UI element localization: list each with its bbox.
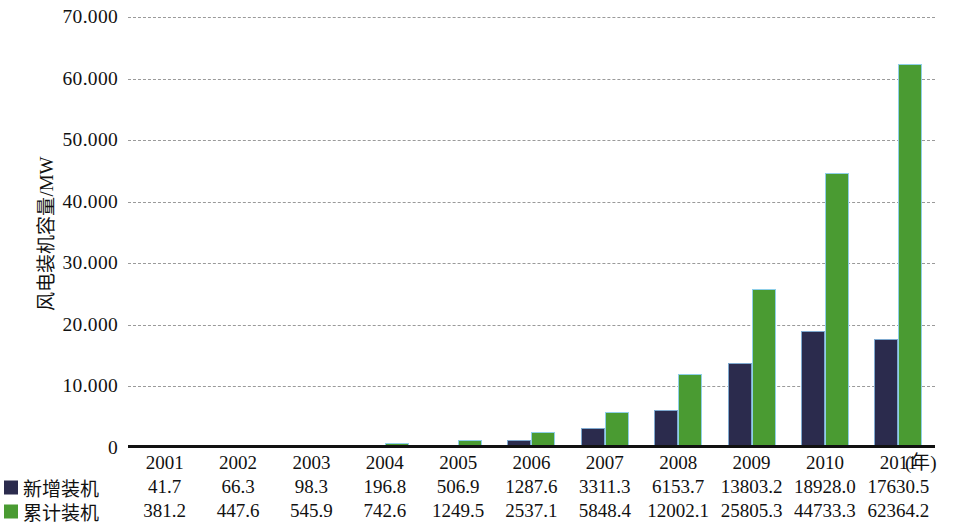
bar-cumulative xyxy=(605,412,629,448)
table-cell-year: 2010 xyxy=(788,452,861,474)
table-row-years: (年) 200120022003200420052006200720082009… xyxy=(0,451,961,475)
bar-group xyxy=(715,17,788,448)
table-cell-cumulative: 62364.2 xyxy=(862,500,935,522)
table-cell-new-installed: 66.3 xyxy=(201,476,274,498)
table-cell-cumulative: 5848.4 xyxy=(568,500,641,522)
table-cell-year: 2011 xyxy=(862,452,935,474)
bar-group xyxy=(568,17,641,448)
legend-label-cumulative: 累计装机 xyxy=(23,498,99,524)
table-cell-cumulative: 25805.3 xyxy=(715,500,788,522)
bar-group xyxy=(421,17,494,448)
table-cell-new-installed: 13803.2 xyxy=(715,476,788,498)
table-cell-year: 2006 xyxy=(495,452,568,474)
y-axis-tick-label: 30.000 xyxy=(63,252,118,274)
bar-cumulative xyxy=(898,64,922,448)
table-cell-year: 2007 xyxy=(568,452,641,474)
legend-label-new-installed: 新增装机 xyxy=(23,474,99,501)
table-cell-new-installed: 18928.0 xyxy=(788,476,861,498)
bar-group xyxy=(642,17,715,448)
data-table: (年) 200120022003200420052006200720082009… xyxy=(0,451,961,524)
bar-cumulative xyxy=(678,374,702,448)
bar-new-installed xyxy=(728,363,752,448)
table-cell-cumulative: 381.2 xyxy=(128,500,201,522)
table-cell-new-installed: 196.8 xyxy=(348,476,421,498)
table-cell-cumulative: 1249.5 xyxy=(421,500,494,522)
y-axis-tick-label: 20.000 xyxy=(63,314,118,336)
bar-series-container xyxy=(128,17,935,448)
table-cell-year: 2001 xyxy=(128,452,201,474)
table-cell-new-installed: 506.9 xyxy=(421,476,494,498)
table-cell-year: 2003 xyxy=(275,452,348,474)
bar-group xyxy=(495,17,568,448)
wind-power-capacity-chart: 风电装机容量/MW 010.00020.00030.00040.00050.00… xyxy=(0,0,961,524)
bar-group xyxy=(348,17,421,448)
table-cell-cumulative: 2537.1 xyxy=(495,500,568,522)
bar-group xyxy=(275,17,348,448)
table-cell-year: 2004 xyxy=(348,452,421,474)
y-axis-tick-label: 40.000 xyxy=(63,191,118,213)
legend-item-cumulative: 累计装机 xyxy=(4,498,99,524)
bar-group xyxy=(128,17,201,448)
table-cell-cumulative: 545.9 xyxy=(275,500,348,522)
table-cell-cumulative: 12002.1 xyxy=(642,500,715,522)
y-axis-tick-label: 60.000 xyxy=(63,68,118,90)
bar-group xyxy=(862,17,935,448)
table-cell-year: 2008 xyxy=(642,452,715,474)
bar-new-installed xyxy=(654,410,678,448)
table-row-cumulative: 累计装机 381.2447.6545.9742.61249.52537.1584… xyxy=(0,499,961,523)
y-axis-tick-label: 10.000 xyxy=(63,375,118,397)
legend-swatch-cumulative xyxy=(4,504,18,518)
bar-group xyxy=(788,17,861,448)
table-cell-year: 2005 xyxy=(421,452,494,474)
bar-group xyxy=(201,17,274,448)
bar-new-installed xyxy=(874,339,898,448)
table-cell-new-installed: 17630.5 xyxy=(862,476,935,498)
y-axis-title: 风电装机容量/MW xyxy=(31,94,58,374)
legend-swatch-new-installed xyxy=(4,480,18,494)
table-cell-cumulative: 742.6 xyxy=(348,500,421,522)
bar-new-installed xyxy=(801,331,825,448)
bar-cumulative xyxy=(752,289,776,448)
plot-area: 010.00020.00030.00040.00050.00060.00070.… xyxy=(128,17,935,448)
x-axis-line xyxy=(128,445,935,448)
table-cell-year: 2002 xyxy=(201,452,274,474)
legend-item-new-installed: 新增装机 xyxy=(4,474,99,501)
bar-cumulative xyxy=(825,173,849,448)
table-cell-new-installed: 3311.3 xyxy=(568,476,641,498)
table-row-new-installed: 新增装机 41.766.398.3196.8506.91287.63311.36… xyxy=(0,475,961,499)
table-cell-new-installed: 1287.6 xyxy=(495,476,568,498)
y-axis-tick-label: 70.000 xyxy=(63,6,118,28)
table-cell-cumulative: 447.6 xyxy=(201,500,274,522)
table-cell-new-installed: 6153.7 xyxy=(642,476,715,498)
table-cell-cumulative: 44733.3 xyxy=(788,500,861,522)
table-cell-new-installed: 41.7 xyxy=(128,476,201,498)
table-cell-year: 2009 xyxy=(715,452,788,474)
y-axis-tick-label: 50.000 xyxy=(63,129,118,151)
table-cell-new-installed: 98.3 xyxy=(275,476,348,498)
